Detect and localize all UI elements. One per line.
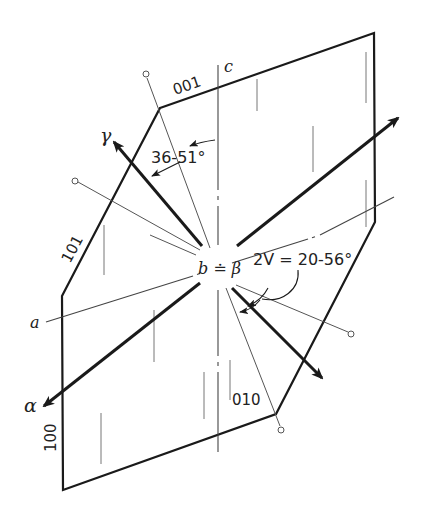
angle-2v-indicator	[240, 270, 298, 312]
label-gamma: γ	[100, 124, 112, 146]
diagram-canvas: 001 101 100 010 c a b ≐ β γ α 36-51° 2V …	[0, 0, 424, 507]
crystal-diagram: 001 101 100 010 c a b ≐ β γ α 36-51° 2V …	[0, 0, 424, 507]
axis-label-a: a	[30, 313, 40, 332]
gamma-arrow-opposite	[232, 288, 322, 378]
face-label-010: 010	[232, 391, 261, 409]
face-label-100: 100	[42, 423, 60, 452]
angle-label-2v: 2V = 20-56°	[253, 250, 352, 269]
label-alpha: α	[24, 394, 37, 416]
axis-label-b-beta: b ≐ β	[198, 259, 241, 278]
optic-axis-lines	[150, 235, 196, 255]
axis-label-c: c	[224, 57, 233, 76]
face-label-101: 101	[58, 232, 87, 266]
angle-label-36-51: 36-51°	[151, 148, 206, 167]
alpha-arrow	[44, 283, 200, 406]
